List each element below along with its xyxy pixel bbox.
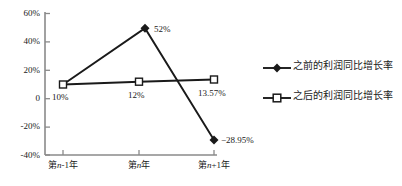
series-after-markers xyxy=(60,76,218,88)
y-tick-label-0: 0 xyxy=(12,94,40,103)
legend-item-before[interactable]: 之前的利润同比增长率 xyxy=(262,60,393,72)
open-square-icon xyxy=(262,90,292,102)
data-label-trough: −28.95% xyxy=(221,135,254,145)
x-category-label-1: 第n-1年 xyxy=(33,160,93,170)
x-category-label-3: 第n+1年 xyxy=(184,160,244,170)
legend-label-after: 之后的利润同比增长率 xyxy=(293,90,393,102)
y-tick-label-neg40: -40% xyxy=(12,151,40,160)
y-tick-label-neg20: -20% xyxy=(12,122,40,131)
legend-item-after[interactable]: 之后的利润同比增长率 xyxy=(262,90,393,102)
y-tick-label-20: 20% xyxy=(12,66,40,75)
x-category-label-2: 第n年 xyxy=(109,160,169,170)
data-label-peak: 52% xyxy=(154,24,171,34)
legend-label-before: 之前的利润同比增长率 xyxy=(293,60,393,72)
y-tick-label-40: 40% xyxy=(12,37,40,46)
chart-figure: 60% 40% 20% 0 -20% -40% 第n-1年 第n年 第n+1年 … xyxy=(0,0,402,186)
data-label-p3: 13.57% xyxy=(198,88,226,98)
data-label-p1: 10% xyxy=(52,92,69,102)
y-tick-label-60: 60% xyxy=(12,9,40,18)
filled-diamond-icon xyxy=(262,60,292,72)
data-label-p2: 12% xyxy=(128,90,145,100)
